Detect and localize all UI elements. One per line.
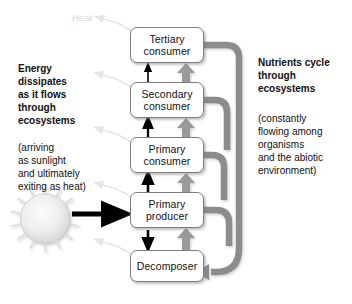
- nutrient-pipe-primary-producer: [204, 210, 229, 246]
- nutrient-pipe-secondary: [204, 100, 227, 150]
- heat-dissipation-arrows: [98, 18, 133, 256]
- trophic-box-secondary-consumer[interactable]: Secondary consumer: [130, 82, 204, 118]
- heat-arrow-decomposer: [98, 241, 133, 256]
- box-label-line1: Primary: [149, 198, 186, 211]
- heat-label: Heat: [72, 12, 92, 23]
- nutrients-cycle-note: (constantly flowing among organisms and …: [258, 112, 352, 177]
- nutrient-arrow-to-tertiary-consumer: [177, 63, 195, 82]
- heat-arrow-top: [99, 18, 133, 33]
- energy-dissipates-heading: Energy dissipates as it flows through ec…: [18, 62, 122, 127]
- box-label-line2: consumer: [144, 100, 191, 113]
- nutrients-cycle-heading: Nutrients cycle through ecosystems: [258, 56, 352, 95]
- trophic-box-primary-producer[interactable]: Primary producer: [130, 192, 204, 228]
- box-label-line1: Tertiary: [149, 33, 184, 46]
- sun-icon: [12, 186, 79, 252]
- box-label-line1: Secondary: [141, 88, 192, 101]
- ecosystem-energy-nutrient-diagram: Heat Tertiary consumer Secondary consume…: [0, 0, 352, 304]
- box-label-line2: consumer: [144, 45, 191, 58]
- box-label-line1: Primary: [149, 143, 186, 156]
- nutrient-pipe-primary-consumer: [204, 155, 224, 200]
- box-label-line2: consumer: [144, 155, 191, 168]
- trophic-box-tertiary-consumer[interactable]: Tertiary consumer: [130, 27, 204, 63]
- nutrient-arrow-to-secondary-consumer: [177, 118, 195, 137]
- nutrient-cycle-pipes: [204, 45, 239, 272]
- nutrient-arrow-to-primary-consumer: [177, 173, 195, 192]
- trophic-box-primary-consumer[interactable]: Primary consumer: [130, 137, 204, 173]
- box-label-line1: Decomposer: [137, 260, 198, 273]
- trophic-box-decomposer[interactable]: Decomposer: [130, 250, 204, 282]
- nutrient-pipe-trunk-to-decomposer: [211, 248, 239, 272]
- nutrient-pipe-tertiary: [204, 45, 239, 248]
- box-label-line2: producer: [146, 210, 188, 223]
- energy-dissipates-note: (arriving as sunlight and ultimately exi…: [18, 141, 122, 193]
- nutrient-arrow-to-primary-producer: [177, 228, 195, 250]
